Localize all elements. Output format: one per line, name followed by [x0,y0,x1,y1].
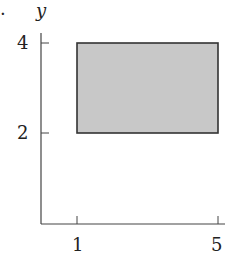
y-tick-label-2: 2 [17,124,28,142]
shaded-rectangle [77,43,218,133]
y-axis-label: y [36,2,46,20]
plot-area [0,0,237,261]
y-tick-label-4: 4 [17,34,28,52]
x-tick-label-5: 5 [211,236,222,254]
x-tick-label-1: 1 [72,236,83,254]
